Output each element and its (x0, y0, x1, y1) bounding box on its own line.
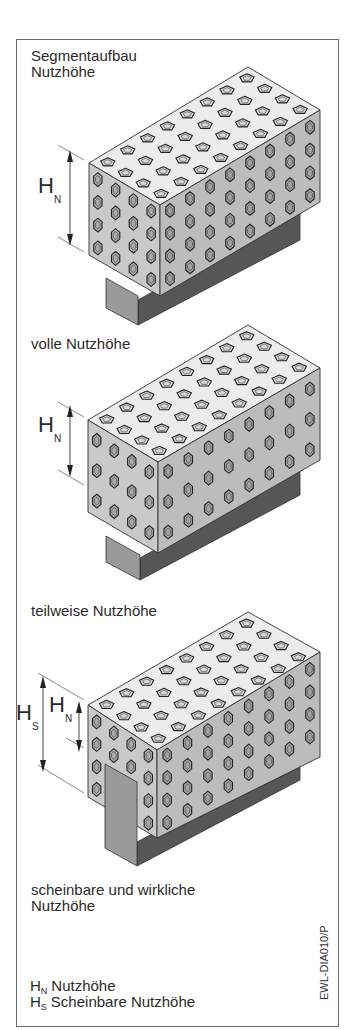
segment-blocks-diagram: H N H N H S H (0, 0, 348, 1030)
block-partial-height (88, 612, 320, 866)
dimension-hn-1: H N (38, 145, 84, 252)
dimension-hn-2: H N (38, 402, 84, 485)
legend-hs: HSScheinbare Nutzhöhe (30, 994, 195, 1015)
hs-label: H (16, 700, 32, 725)
block-full-height (88, 325, 320, 580)
block-segment-structure (89, 67, 320, 325)
base-front-face-protruding (105, 764, 137, 866)
base-front-face (106, 536, 140, 580)
hn-label: H (38, 173, 54, 198)
svg-text:N: N (54, 433, 61, 444)
svg-text:N: N (65, 713, 72, 724)
base-front-face (106, 278, 138, 325)
svg-text:S: S (32, 721, 39, 732)
hn-label: H (49, 692, 65, 717)
svg-text:N: N (54, 194, 61, 205)
dimension-hs-hn-3: H S H N (16, 673, 84, 793)
drawing-code: EWL-DIA010/P (318, 925, 330, 1000)
hn-label: H (38, 412, 54, 437)
